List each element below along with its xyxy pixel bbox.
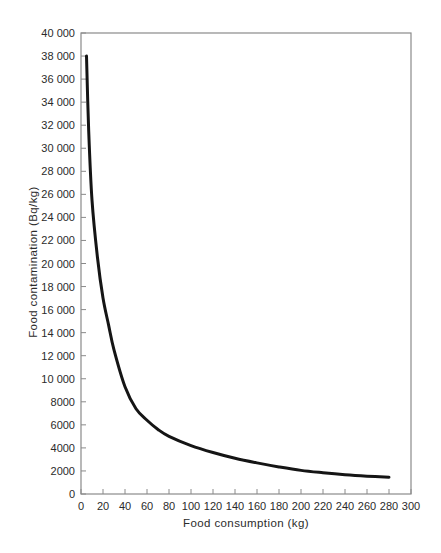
x-tick-label: 300 <box>402 500 420 512</box>
x-tick-label: 140 <box>226 500 244 512</box>
y-tick-label: 0 <box>69 488 75 500</box>
y-tick-label: 22 000 <box>41 234 75 246</box>
x-tick-label: 40 <box>119 500 131 512</box>
y-axis-ticks: 0200040006000800010 00012 00014 00016 00… <box>41 27 86 500</box>
x-tick-label: 20 <box>97 500 109 512</box>
y-tick-label: 38 000 <box>41 50 75 62</box>
y-tick-label: 26 000 <box>41 188 75 200</box>
y-tick-label: 2000 <box>51 465 75 477</box>
y-tick-label: 36 000 <box>41 73 75 85</box>
y-tick-label: 24 000 <box>41 211 75 223</box>
y-tick-label: 34 000 <box>41 96 75 108</box>
y-tick-label: 6000 <box>51 419 75 431</box>
x-tick-label: 280 <box>380 500 398 512</box>
plot-frame <box>81 33 411 494</box>
y-tick-label: 14 000 <box>41 327 75 339</box>
x-axis-ticks: 0204060801001201401601802002202402602803… <box>78 489 420 512</box>
x-tick-label: 100 <box>182 500 200 512</box>
data-curve <box>87 56 390 477</box>
x-tick-label: 240 <box>336 500 354 512</box>
x-tick-label: 160 <box>248 500 266 512</box>
y-tick-label: 30 000 <box>41 142 75 154</box>
x-tick-label: 200 <box>292 500 310 512</box>
y-tick-label: 10 000 <box>41 373 75 385</box>
y-tick-label: 12 000 <box>41 350 75 362</box>
x-tick-label: 260 <box>358 500 376 512</box>
chart: 0200040006000800010 00012 00014 00016 00… <box>0 0 441 553</box>
x-tick-label: 220 <box>314 500 332 512</box>
y-tick-label: 32 000 <box>41 119 75 131</box>
y-tick-label: 20 000 <box>41 258 75 270</box>
y-tick-label: 18 000 <box>41 281 75 293</box>
x-tick-label: 180 <box>270 500 288 512</box>
y-tick-label: 8000 <box>51 396 75 408</box>
x-axis-title: Food consumption (kg) <box>183 517 309 529</box>
y-tick-label: 16 000 <box>41 304 75 316</box>
x-tick-label: 120 <box>204 500 222 512</box>
y-tick-label: 4000 <box>51 442 75 454</box>
y-tick-label: 40 000 <box>41 27 75 39</box>
x-tick-label: 80 <box>163 500 175 512</box>
x-tick-label: 60 <box>141 500 153 512</box>
y-tick-label: 28 000 <box>41 165 75 177</box>
y-axis-title: Food contamination (Bq/kg) <box>27 186 39 338</box>
x-tick-label: 0 <box>78 500 84 512</box>
